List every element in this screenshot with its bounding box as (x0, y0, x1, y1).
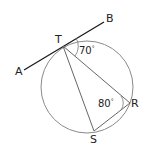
label-t: T (54, 33, 62, 46)
angle-label-70: 70° (79, 44, 95, 56)
label-s: S (90, 133, 97, 146)
label-b: B (106, 12, 114, 25)
angle-arc-btr (75, 38, 78, 56)
label-a: A (15, 65, 23, 78)
angle-label-80: 80° (98, 97, 114, 109)
geometry-diagram: B T A R S 70° 80° (0, 0, 156, 154)
label-r: R (131, 97, 139, 110)
